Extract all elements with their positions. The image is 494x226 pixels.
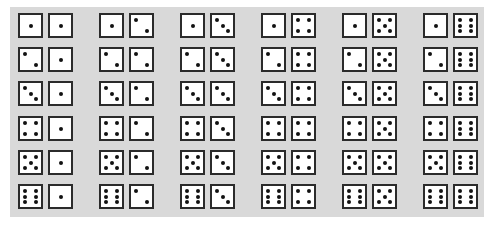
pip-icon (59, 92, 63, 96)
die-face-4 (180, 116, 205, 141)
pip-icon (469, 127, 473, 131)
pip-icon (353, 92, 357, 96)
pip-icon (196, 132, 200, 136)
pip-icon (104, 86, 108, 90)
die-face-1 (48, 184, 73, 209)
die-face-2 (129, 47, 154, 72)
die-face-5 (342, 150, 367, 175)
pip-icon (296, 132, 300, 136)
pip-icon (358, 132, 362, 136)
die-face-4 (291, 81, 316, 106)
die-face-6 (453, 47, 478, 72)
pip-icon (388, 155, 392, 159)
pip-icon (358, 121, 362, 125)
die-face-1 (48, 47, 73, 72)
pip-icon (458, 166, 462, 170)
pip-icon (469, 132, 473, 136)
pip-icon (196, 195, 200, 199)
pip-icon (377, 52, 381, 56)
pip-icon (134, 155, 138, 159)
die-face-6 (423, 184, 448, 209)
pip-icon (266, 195, 270, 199)
pip-icon (307, 29, 311, 33)
dice-outcomes-panel (10, 7, 484, 217)
pip-icon (115, 121, 119, 125)
pip-icon (34, 97, 38, 101)
dice-pair-5-2 (99, 150, 155, 175)
pip-icon (196, 189, 200, 193)
pip-icon (347, 121, 351, 125)
pip-icon (115, 63, 119, 67)
pip-icon (434, 92, 438, 96)
pip-icon (226, 200, 230, 204)
pip-icon (104, 52, 108, 56)
die-face-6 (18, 184, 43, 209)
pip-icon (296, 121, 300, 125)
pip-icon (34, 155, 38, 159)
pip-icon (428, 166, 432, 170)
pip-icon (226, 166, 230, 170)
pip-icon (215, 189, 219, 193)
pip-icon (266, 132, 270, 136)
pip-icon (185, 52, 189, 56)
pip-icon (458, 161, 462, 165)
pip-icon (347, 189, 351, 193)
pip-icon (145, 63, 149, 67)
pip-icon (469, 18, 473, 22)
die-face-2 (18, 47, 43, 72)
pip-icon (388, 29, 392, 33)
pip-icon (34, 189, 38, 193)
pip-icon (29, 92, 33, 96)
pip-icon (439, 63, 443, 67)
pip-icon (115, 195, 119, 199)
pip-icon (458, 58, 462, 62)
pip-icon (277, 155, 281, 159)
die-face-3 (18, 81, 43, 106)
dice-pair-5-3 (180, 150, 236, 175)
pip-icon (277, 97, 281, 101)
pip-icon (29, 24, 33, 28)
pip-icon (439, 155, 443, 159)
pip-icon (358, 200, 362, 204)
pip-icon (469, 121, 473, 125)
dice-pair-6-4 (261, 184, 317, 209)
pip-icon (226, 63, 230, 67)
pip-icon (34, 166, 38, 170)
pip-icon (110, 161, 114, 165)
pip-icon (59, 127, 63, 131)
pip-icon (196, 63, 200, 67)
pip-icon (215, 121, 219, 125)
pip-icon (439, 200, 443, 204)
pip-icon (191, 161, 195, 165)
dice-pair-4-5 (342, 116, 398, 141)
pip-icon (428, 52, 432, 56)
pip-icon (458, 132, 462, 136)
pip-icon (34, 200, 38, 204)
pip-icon (215, 52, 219, 56)
die-face-2 (129, 81, 154, 106)
pip-icon (307, 97, 311, 101)
pip-icon (104, 132, 108, 136)
die-face-4 (261, 116, 286, 141)
dice-pair-6-5 (342, 184, 398, 209)
dice-pair-1-6 (423, 13, 479, 38)
pip-icon (196, 121, 200, 125)
pip-icon (104, 195, 108, 199)
pip-icon (191, 92, 195, 96)
pip-icon (296, 166, 300, 170)
pip-icon (388, 97, 392, 101)
pip-icon (307, 132, 311, 136)
pip-icon (358, 189, 362, 193)
pip-icon (377, 155, 381, 159)
pip-icon (347, 195, 351, 199)
pip-icon (277, 195, 281, 199)
die-face-3 (210, 150, 235, 175)
die-face-4 (99, 116, 124, 141)
die-face-2 (129, 116, 154, 141)
pip-icon (185, 200, 189, 204)
pip-icon (358, 195, 362, 199)
pip-icon (347, 155, 351, 159)
pip-icon (377, 86, 381, 90)
pip-icon (296, 189, 300, 193)
pip-icon (469, 97, 473, 101)
